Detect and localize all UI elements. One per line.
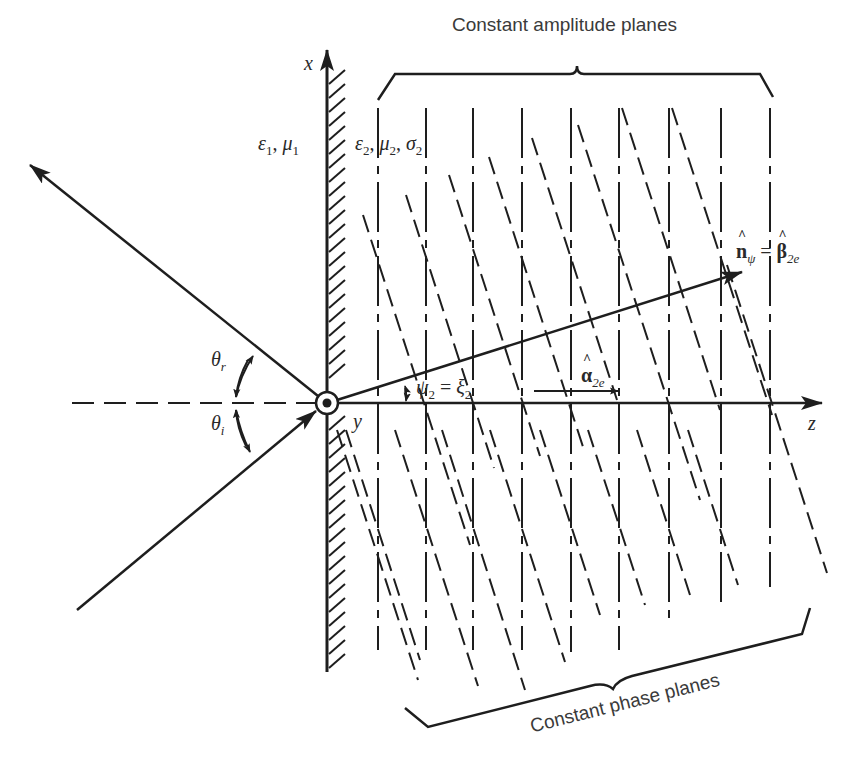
oblique-incidence-figure: Constant amplitude planes Constant phase…	[0, 0, 860, 772]
reflected-ray	[30, 165, 318, 396]
interface-hatching	[329, 70, 345, 668]
incident-angle-arc	[236, 410, 250, 452]
transmitted-ray	[337, 272, 742, 400]
reflected-angle-label: θr	[211, 348, 226, 375]
reflected-angle-arc	[236, 356, 253, 397]
z-axis-label: z	[808, 412, 816, 435]
x-axis-label: x	[304, 52, 313, 75]
attenuation-vector-label: α2e	[581, 364, 604, 391]
y-axis-label: y	[353, 410, 362, 433]
incident-ray	[77, 411, 316, 610]
amplitude-planes-label: Constant amplitude planes	[452, 14, 677, 36]
amplitude-planes-brace	[378, 66, 773, 100]
transmission-angle-label: ψ2 = ξ2	[416, 376, 471, 403]
constant-phase-planes-lower	[346, 430, 738, 690]
incident-angle-label: θi	[211, 412, 224, 439]
medium2-params: ε2, μ2, σ2	[355, 132, 422, 159]
phase-vector-label: nψ = β2e	[736, 240, 799, 267]
constant-phase-planes	[337, 108, 827, 680]
medium1-params: ε1, μ1	[258, 132, 299, 159]
